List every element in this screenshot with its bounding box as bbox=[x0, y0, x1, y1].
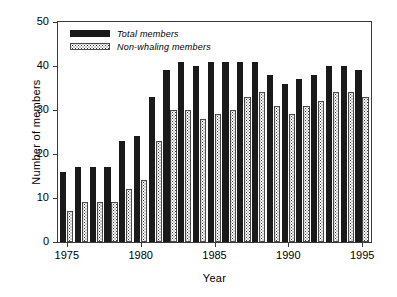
bar-non-whaling-members bbox=[303, 106, 309, 242]
bar-total-members bbox=[222, 62, 228, 242]
chart-legend: Total members Non-whaling members bbox=[70, 28, 211, 54]
x-axis-tick-label: 1985 bbox=[202, 249, 226, 261]
legend-item-total-members: Total members bbox=[70, 28, 211, 39]
x-axis-tick-label: 1995 bbox=[350, 249, 374, 261]
bar-non-whaling-members bbox=[200, 119, 206, 242]
bar-non-whaling-members bbox=[97, 202, 103, 242]
plot-area: 01020304050 19751980198519901995 Total m… bbox=[57, 21, 372, 243]
bar-non-whaling-members bbox=[244, 97, 250, 242]
bar-non-whaling-members bbox=[230, 110, 236, 242]
bar-group bbox=[163, 22, 177, 242]
y-axis-tick-mark bbox=[53, 22, 58, 23]
bar-total-members bbox=[119, 141, 125, 242]
bar-total-members bbox=[104, 167, 110, 242]
y-axis-tick-label: 10 bbox=[37, 191, 49, 203]
bar-group bbox=[267, 22, 281, 242]
bar-non-whaling-members bbox=[289, 114, 295, 242]
bar-non-whaling-members bbox=[170, 110, 176, 242]
bar-total-members bbox=[311, 75, 317, 242]
bar-group bbox=[208, 22, 222, 242]
bar-non-whaling-members bbox=[274, 106, 280, 242]
bar-total-members bbox=[296, 79, 302, 242]
bar-group bbox=[134, 22, 148, 242]
legend-swatch-non-whaling-members bbox=[70, 43, 110, 50]
y-axis-tick-mark bbox=[53, 66, 58, 67]
y-axis-tick-mark bbox=[53, 110, 58, 111]
bar-group bbox=[60, 22, 74, 242]
bar-total-members bbox=[355, 70, 361, 242]
bar-total-members bbox=[193, 66, 199, 242]
bar-total-members bbox=[326, 66, 332, 242]
bar-group bbox=[282, 22, 296, 242]
x-axis-tick-label: 1990 bbox=[276, 249, 300, 261]
y-axis-tick-mark bbox=[53, 154, 58, 155]
bar-non-whaling-members bbox=[348, 92, 354, 242]
bar-total-members bbox=[178, 62, 184, 242]
bar-non-whaling-members bbox=[185, 110, 191, 242]
x-axis-tick-mark bbox=[141, 242, 142, 247]
bar-group bbox=[75, 22, 89, 242]
bar-group bbox=[90, 22, 104, 242]
bar-non-whaling-members bbox=[333, 92, 339, 242]
y-axis-tick-mark bbox=[53, 242, 58, 243]
bar-group bbox=[193, 22, 207, 242]
bar-chart-figure: Number of members 01020304050 1975198019… bbox=[0, 0, 397, 297]
bar-total-members bbox=[60, 172, 66, 242]
bar-non-whaling-members bbox=[259, 92, 265, 242]
bar-non-whaling-members bbox=[362, 97, 368, 242]
y-axis-tick-mark bbox=[53, 198, 58, 199]
legend-item-non-whaling-members: Non-whaling members bbox=[70, 41, 211, 52]
legend-label-total-members: Total members bbox=[117, 29, 179, 39]
bar-total-members bbox=[90, 167, 96, 242]
bar-non-whaling-members bbox=[82, 202, 88, 242]
bar-group bbox=[149, 22, 163, 242]
y-axis-tick-label: 30 bbox=[37, 103, 49, 115]
bar-total-members bbox=[267, 75, 273, 242]
bar-total-members bbox=[282, 84, 288, 242]
bar-group bbox=[104, 22, 118, 242]
bar-non-whaling-members bbox=[141, 180, 147, 242]
bar-non-whaling-members bbox=[126, 189, 132, 242]
bar-group bbox=[237, 22, 251, 242]
bar-total-members bbox=[341, 66, 347, 242]
bar-total-members bbox=[134, 136, 140, 242]
bar-total-members bbox=[252, 62, 258, 242]
bar-group bbox=[355, 22, 369, 242]
x-axis-tick-mark bbox=[288, 242, 289, 247]
legend-label-non-whaling-members: Non-whaling members bbox=[117, 42, 211, 52]
x-axis-tick-label: 1975 bbox=[55, 249, 79, 261]
bar-non-whaling-members bbox=[156, 141, 162, 242]
bar-group bbox=[326, 22, 340, 242]
y-axis-tick-label: 20 bbox=[37, 147, 49, 159]
bar-total-members bbox=[163, 70, 169, 242]
y-axis-tick-label: 0 bbox=[43, 235, 49, 247]
x-axis-tick-mark bbox=[67, 242, 68, 247]
bar-total-members bbox=[237, 62, 243, 242]
bar-total-members bbox=[75, 167, 81, 242]
x-axis-tick-mark bbox=[362, 242, 363, 247]
bar-total-members bbox=[149, 97, 155, 242]
x-axis-tick-mark bbox=[215, 242, 216, 247]
bar-non-whaling-members bbox=[111, 202, 117, 242]
bar-non-whaling-members bbox=[67, 211, 73, 242]
plot-inner: 01020304050 19751980198519901995 bbox=[58, 22, 371, 242]
bar-group bbox=[296, 22, 310, 242]
y-axis-tick-label: 40 bbox=[37, 59, 49, 71]
bar-group bbox=[341, 22, 355, 242]
bar-group bbox=[119, 22, 133, 242]
bar-group bbox=[178, 22, 192, 242]
bar-group bbox=[222, 22, 236, 242]
x-axis-title: Year bbox=[57, 272, 372, 284]
bar-non-whaling-members bbox=[318, 101, 324, 242]
y-axis-tick-label: 50 bbox=[37, 15, 49, 27]
bar-group bbox=[311, 22, 325, 242]
bar-non-whaling-members bbox=[215, 114, 221, 242]
bar-total-members bbox=[208, 62, 214, 242]
legend-swatch-total-members bbox=[70, 30, 110, 37]
bar-group bbox=[252, 22, 266, 242]
x-axis-tick-label: 1980 bbox=[128, 249, 152, 261]
